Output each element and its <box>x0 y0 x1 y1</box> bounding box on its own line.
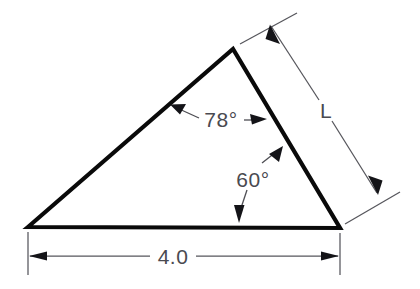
base-angle-callout: 60° <box>234 146 283 223</box>
base-dimension-label: 4.0 <box>158 245 189 268</box>
arrowhead-78-left <box>170 104 186 115</box>
base-dimension: 4.0 <box>29 245 339 268</box>
side-dimension-line-upper <box>271 26 319 100</box>
side-dimension-label: L <box>320 99 332 122</box>
base-angle-label: 60° <box>236 168 269 191</box>
side-arrowhead-upper <box>266 25 281 45</box>
base-arrowhead-right <box>321 252 339 261</box>
triangle-dimension-drawing: 4.0 L 78° <box>0 0 420 289</box>
base-arrowhead-left <box>29 252 47 261</box>
engineering-diagram: 4.0 L 78° <box>0 0 420 289</box>
extension-line-base-vertex <box>345 192 400 224</box>
side-arrowhead-lower <box>368 176 383 196</box>
triangle-shape <box>28 49 340 228</box>
triangle-outline <box>28 49 340 228</box>
side-dimension-line-lower <box>332 121 377 193</box>
apex-angle-label: 78° <box>204 108 237 131</box>
arrowhead-60-lower <box>234 205 245 223</box>
apex-angle-callout: 78° <box>170 104 267 131</box>
arrowhead-78-right <box>250 114 267 125</box>
arrowhead-60-upper <box>269 146 283 162</box>
side-dimension: L <box>266 25 383 196</box>
